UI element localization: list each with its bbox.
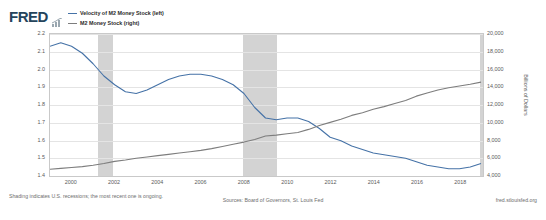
fred-logo: FRED	[9, 9, 48, 24]
x-tick: 2002	[108, 179, 120, 186]
line-velocity-m2	[50, 43, 481, 169]
y-axis-right-title: Billions of Dollars	[523, 74, 529, 115]
y-tick-right: 8,000	[487, 137, 501, 143]
y-tick-left: 1.6	[38, 137, 46, 143]
bar-chart-icon	[52, 13, 63, 22]
y-tick-left: 2.2	[38, 30, 46, 36]
grid-line	[50, 176, 483, 177]
y-tick-right: 6,000	[487, 154, 501, 160]
legend-item-velocity: Velocity of M2 Money Stock (left)	[68, 9, 164, 17]
x-tick: 2018	[454, 179, 466, 186]
sources-label: Sources: Board of Governors, St. Louis F…	[0, 197, 546, 205]
y-tick-left: 1.5	[38, 154, 46, 160]
legend-label-m2: M2 Money Stock (right)	[80, 19, 139, 27]
y-tick-right: 18,000	[487, 48, 504, 54]
x-tick: 2000	[65, 179, 77, 186]
series-lines	[50, 34, 483, 176]
x-tick: 2016	[411, 179, 423, 186]
x-axis: 2000200220042006200820102012201420162018	[49, 179, 484, 189]
y-tick-left: 2.0	[38, 66, 46, 72]
y-axis-left: 2.22.12.01.91.81.71.61.51.4	[14, 33, 45, 177]
y-tick-right: 16,000	[487, 66, 504, 72]
legend-swatch-icon	[68, 13, 77, 14]
y-tick-right: 4,000	[487, 172, 501, 178]
legend-swatch-icon	[68, 23, 77, 24]
y-tick-right: 12,000	[487, 101, 504, 107]
y-tick-left: 1.9	[38, 83, 46, 89]
chart-legend: Velocity of M2 Money Stock (left) M2 Mon…	[68, 9, 164, 29]
y-tick-right: 10,000	[487, 119, 504, 125]
y-tick-left: 1.4	[38, 172, 46, 178]
site-url-label: fred.stlouisfed.org	[496, 197, 537, 205]
line-m2-stock	[50, 82, 481, 169]
x-tick: 2014	[368, 179, 380, 186]
y-tick-right: 14,000	[487, 83, 504, 89]
fred-chart: FRED Velocity of M2 Money Stock (left) M…	[0, 0, 546, 220]
x-tick: 2006	[195, 179, 207, 186]
y-axis-right: 20,00018,00016,00014,00012,00010,0008,00…	[487, 33, 519, 177]
y-tick-left: 1.7	[38, 119, 46, 125]
x-tick: 2008	[238, 179, 250, 186]
x-tick: 2012	[324, 179, 336, 186]
x-tick: 2004	[151, 179, 163, 186]
x-tick: 2010	[281, 179, 293, 186]
legend-item-m2: M2 Money Stock (right)	[68, 19, 164, 27]
legend-label-velocity: Velocity of M2 Money Stock (left)	[80, 9, 164, 17]
chart-header: FRED Velocity of M2 Money Stock (left) M…	[0, 0, 546, 30]
plot-area	[49, 33, 484, 177]
y-tick-right: 20,000	[487, 30, 504, 36]
y-tick-left: 1.8	[38, 101, 46, 107]
y-tick-left: 2.1	[38, 48, 46, 54]
